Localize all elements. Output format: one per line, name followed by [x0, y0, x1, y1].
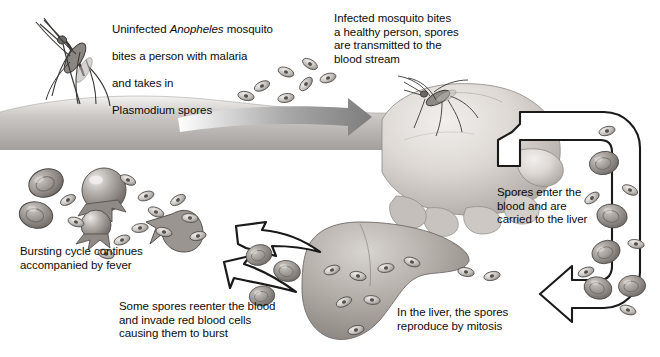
caption-line-1: Uninfected Anopheles mosquito [112, 23, 273, 35]
caption-bursting-cycle-fever: Bursting cycle continues accompanied by … [20, 245, 143, 272]
caption-line-4: Plasmodium spores [112, 104, 212, 116]
caption-mosquito-bites-healthy-person: Infected mosquito bites a healthy person… [334, 12, 459, 66]
malaria-cycle-diagram: Uninfected Anopheles mosquito bites a pe… [0, 0, 660, 357]
diagram-artwork [0, 0, 660, 357]
caption-line-2: bites a person with malaria [112, 50, 247, 62]
caption-line-3: and takes in [112, 77, 173, 89]
mosquito-on-skin-illustration [36, 18, 110, 106]
caption-spores-enter-blood: Spores enter the blood and are carried t… [497, 186, 587, 227]
caption-mosquito-bite-infected-person: Uninfected Anopheles mosquito bites a pe… [112, 9, 273, 118]
bursting-cells-illustration [17, 164, 203, 252]
caption-liver-mitosis: In the liver, the spores reproduce by mi… [397, 306, 508, 333]
caption-spores-reenter-blood: Some spores reenter the blood and invade… [119, 300, 275, 341]
